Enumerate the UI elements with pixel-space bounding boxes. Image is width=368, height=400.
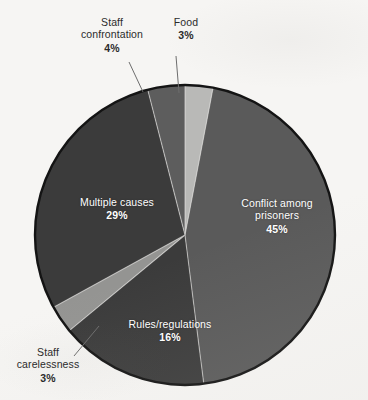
slice-label-food: Food 3%	[160, 16, 212, 42]
slice-label-rules-regulations: Rules/regulations 16%	[112, 318, 228, 344]
slice-label-line1: Multiple causes	[58, 196, 176, 208]
slice-label-percent: 45%	[222, 223, 332, 235]
slice-label-line1: Staff	[66, 16, 158, 28]
slice-label-line2: carelessness	[2, 358, 94, 370]
leader-line-staff-confrontation	[129, 62, 143, 92]
slice-label-percent: 3%	[160, 29, 212, 41]
slice-label-line2: prisoners	[222, 209, 332, 221]
slice-label-percent: 29%	[58, 209, 176, 221]
slice-label-multiple-causes: Multiple causes 29%	[58, 196, 176, 222]
slice-label-percent: 3%	[2, 372, 94, 384]
slice-label-conflict-among-prisoners: Conflict among prisoners 45%	[222, 197, 332, 235]
slice-label-line1: Rules/regulations	[112, 318, 228, 330]
slice-label-staff-confrontation: Staff confrontation 4%	[66, 16, 158, 54]
slice-label-percent: 4%	[66, 42, 158, 54]
slice-label-line1: Conflict among	[222, 197, 332, 209]
slice-label-percent: 16%	[112, 331, 228, 343]
slice-label-line1: Staff	[2, 346, 94, 358]
slice-label-line2: confrontation	[66, 28, 158, 40]
slice-label-line1: Food	[160, 16, 212, 28]
pie-chart: Conflict among prisoners 45% Multiple ca…	[0, 0, 368, 400]
slice-label-staff-carelessness: Staff carelessness 3%	[2, 346, 94, 384]
